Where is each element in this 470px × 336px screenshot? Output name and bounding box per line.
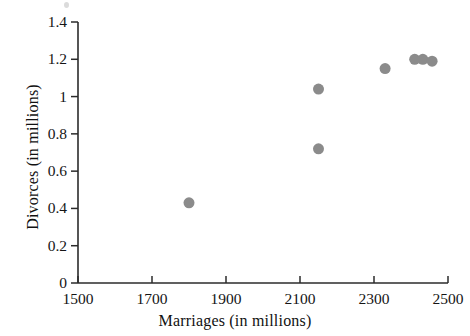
x-tick-label: 1900	[186, 291, 266, 307]
y-tick-label: 0	[59, 275, 67, 291]
data-point	[427, 56, 438, 67]
y-axis-ticks	[71, 22, 78, 283]
x-tick-label: 1500	[38, 291, 118, 307]
plot-area	[0, 0, 470, 336]
x-axis-ticks	[78, 276, 448, 283]
x-tick-label: 2500	[408, 291, 470, 307]
y-tick-label: 1	[59, 89, 67, 105]
y-tick-label: 0.4	[48, 200, 67, 216]
y-tick-label: 0.8	[48, 126, 67, 142]
y-tick-label: 1.2	[48, 51, 67, 67]
data-point	[417, 54, 428, 65]
x-tick-label: 2300	[334, 291, 414, 307]
x-tick-label: 2100	[260, 291, 340, 307]
y-tick-label: 0.2	[48, 238, 67, 254]
y-tick-label: 1.4	[48, 14, 67, 30]
y-tick-label: 0.6	[48, 163, 67, 179]
x-tick-label: 1700	[112, 291, 192, 307]
data-point	[313, 84, 324, 95]
axis-lines	[78, 22, 448, 283]
data-point	[313, 143, 324, 154]
data-point	[380, 63, 391, 74]
x-axis-title: Marriages (in millions)	[0, 312, 470, 330]
y-axis-title: Divorces (in millions)	[24, 27, 42, 287]
data-point	[184, 197, 195, 208]
data-point-group	[184, 54, 438, 209]
scatter-chart: 00.20.40.60.811.21.4 1500170019002100230…	[0, 0, 470, 336]
